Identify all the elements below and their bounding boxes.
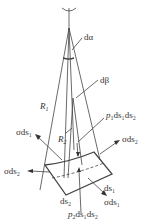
p1-label: p1ds₁ds₂ xyxy=(105,110,136,121)
sigma-ds2-right-arrow-line xyxy=(100,142,117,154)
sigma-ds2-left-arrowhead xyxy=(27,169,33,173)
sigma-ds1-right-arrow-line xyxy=(88,178,104,193)
membrane-force-diagram: dα dβ R1 R2 p1ds₁ds₂ σds₁ σds₂ σds₂ ds₁ … xyxy=(0,0,148,223)
ds1-label: ds₁ xyxy=(104,183,115,193)
p2-arrowhead xyxy=(77,167,81,172)
cone2-line-left xyxy=(68,98,73,178)
R1-label: R1 xyxy=(39,101,49,112)
p1-arrowhead xyxy=(76,152,80,157)
d-alpha-arc xyxy=(63,58,74,59)
p2-line xyxy=(79,170,81,213)
p2-label: p2ds₁ds₂ xyxy=(67,209,98,220)
d-beta-leader xyxy=(76,80,98,98)
sigma-ds2-left-label: σds₂ xyxy=(4,166,20,176)
d-alpha-leader xyxy=(72,38,82,50)
sigma-ds1-right-label: σds₁ xyxy=(104,197,120,207)
sigma-ds1-left-label: σds₁ xyxy=(16,127,32,137)
d-alpha-label: dα xyxy=(84,32,94,42)
ds2-label: ds₂ xyxy=(60,196,71,206)
d-beta-label: dβ xyxy=(100,75,110,85)
sigma-ds2-right-arrowhead xyxy=(114,140,120,145)
sigma-ds2-right-label: σds₂ xyxy=(122,134,138,144)
membrane-element xyxy=(45,152,112,195)
